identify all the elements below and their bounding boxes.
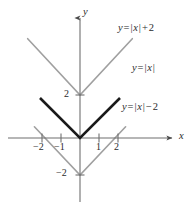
curve-label-y-abs-x-plus-2: y=|x|+2 — [118, 22, 154, 33]
x-tick-label-minus-1: −1 — [54, 141, 65, 152]
x-tick-label-plus-2: 2 — [114, 141, 119, 152]
label-bar-close: | — [152, 62, 155, 73]
label-constant: 2 — [153, 101, 158, 112]
curve-label-y-abs-x-minus-2: y=|x|−2 — [122, 101, 158, 112]
x-axis-label: x — [179, 130, 184, 141]
y-axis-label: y — [83, 6, 88, 17]
label-operator: + — [142, 22, 149, 33]
label-bar-close: | — [142, 101, 145, 112]
label-equals: = — [137, 62, 144, 73]
label-bar-close: | — [138, 22, 141, 33]
curve-label-y-abs-x: y=|x| — [132, 62, 156, 73]
label-equals: = — [123, 22, 130, 33]
coordinate-plane-svg — [0, 0, 193, 210]
y-tick-label-minus-2: −2 — [56, 167, 67, 178]
x-tick-label-plus-1: 1 — [96, 141, 101, 152]
y-tick-label-plus-2: 2 — [64, 88, 69, 99]
label-equals: = — [127, 101, 134, 112]
absolute-value-graph-figure: y=|x|+2 y=|x| y=|x|−2 −2 −1 1 2 2 −2 x y — [0, 0, 193, 210]
label-constant: 2 — [149, 22, 154, 33]
x-tick-label-minus-2: −2 — [33, 141, 44, 152]
label-operator: − — [146, 101, 153, 112]
